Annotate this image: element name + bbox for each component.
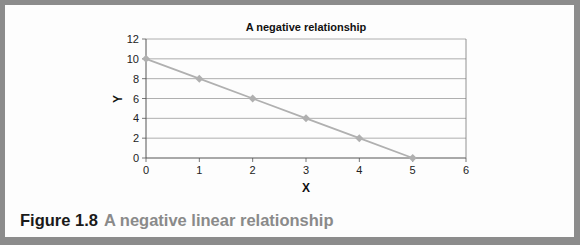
axes	[142, 39, 466, 162]
x-tick-label: 5	[410, 164, 416, 176]
x-tick-label: 3	[303, 164, 309, 176]
figure-caption-text: A negative linear relationship	[104, 211, 334, 229]
y-tick-label: 12	[127, 33, 139, 45]
y-tick-label: 2	[133, 132, 139, 144]
diamond-marker	[302, 114, 310, 122]
y-tick-labels: 024681012	[127, 33, 139, 164]
y-tick-label: 4	[133, 112, 139, 124]
x-tick-labels: 0123456	[143, 164, 469, 176]
diamond-marker	[195, 75, 203, 83]
data-series	[142, 55, 417, 162]
x-tick-label: 2	[250, 164, 256, 176]
figure-number: Figure 1.8	[20, 211, 98, 229]
y-tick-label: 0	[133, 152, 139, 164]
x-tick-label: 4	[356, 164, 362, 176]
diamond-marker	[355, 134, 363, 142]
diamond-marker	[142, 55, 150, 63]
x-axis-label: X	[302, 181, 310, 195]
y-axis-label: Y	[111, 95, 125, 103]
y-tick-label: 6	[133, 93, 139, 105]
x-tick-label: 1	[196, 164, 202, 176]
x-tick-label: 0	[143, 164, 149, 176]
figure-caption: Figure 1.8A negative linear relationship	[20, 211, 334, 230]
diamond-marker	[409, 154, 417, 162]
series-line	[146, 59, 413, 158]
gridlines	[146, 39, 466, 138]
chart-title: A negative relationship	[246, 21, 367, 33]
y-tick-label: 10	[127, 53, 139, 65]
x-tick-label: 6	[463, 164, 469, 176]
y-tick-label: 8	[133, 73, 139, 85]
line-chart: A negative relationship 024681012 012345…	[0, 0, 580, 245]
diamond-marker	[249, 95, 257, 103]
